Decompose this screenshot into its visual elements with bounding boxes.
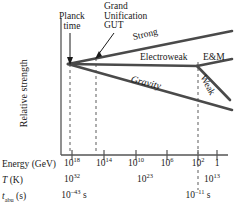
- planck-time-line2: time: [63, 21, 80, 31]
- planck-time-annotation: Planck time: [59, 12, 85, 32]
- time-value-0-suffix: s: [81, 190, 87, 200]
- gut-line3: GUT: [104, 20, 124, 30]
- energy-tick-2-exponent: 10: [138, 156, 144, 163]
- planck-time-line1: Planck: [59, 11, 85, 21]
- energy-tick-3-exponent: 6: [170, 156, 173, 163]
- temperature-value-1-mantissa: 10: [137, 174, 147, 184]
- y-axis-label: Relative strength: [19, 45, 30, 141]
- curve-label-em: E&M: [203, 53, 225, 63]
- temperature-value-0-mantissa: 10: [64, 174, 74, 184]
- energy-tick-5-mantissa: 1: [215, 158, 220, 168]
- energy-tick-1-exponent: 14: [106, 156, 112, 163]
- energy-tick-1-mantissa: 10: [96, 158, 106, 168]
- time-value-1-exponent: –11: [195, 188, 204, 195]
- energy-tick-0: 1018: [64, 159, 80, 169]
- temperature-value-1: 1023: [137, 175, 153, 185]
- row-label-time-unit: (s): [14, 191, 26, 201]
- temperature-value-2-mantissa: 10: [204, 174, 214, 184]
- row-label-temperature: T (K): [2, 176, 23, 186]
- energy-tick-4-exponent: 2: [201, 156, 204, 163]
- plot-canvas: [0, 0, 235, 212]
- gut-line1: Grand: [104, 1, 128, 11]
- row-label-energy: Energy (GeV): [2, 160, 56, 170]
- curve-electroweak: [68, 64, 198, 66]
- curve-label-electroweak: Electroweak: [140, 53, 187, 63]
- energy-tick-0-exponent: 18: [74, 156, 80, 163]
- energy-tick-4: 102: [192, 159, 205, 169]
- gut-line2: Unification: [104, 11, 147, 21]
- gut-annotation: Grand Unification GUT: [104, 2, 147, 31]
- energy-tick-3-mantissa: 10: [161, 158, 171, 168]
- time-value-1-suffix: s: [204, 190, 210, 200]
- time-value-0: 10–43 s: [61, 191, 86, 201]
- time-value-0-mantissa: 10: [61, 190, 71, 200]
- temperature-value-0-exponent: 32: [74, 172, 80, 179]
- energy-tick-5: 1: [215, 159, 220, 169]
- temperature-value-1-exponent: 23: [147, 172, 153, 179]
- temperature-value-2-exponent: 13: [214, 172, 220, 179]
- planck-time-arrow: [67, 33, 73, 65]
- energy-tick-4-mantissa: 10: [192, 158, 202, 168]
- temperature-value-2: 1013: [204, 175, 220, 185]
- energy-tick-2: 1010: [128, 159, 144, 169]
- time-value-0-exponent: –43: [71, 188, 81, 195]
- row-label-temperature-unit: (K): [7, 175, 23, 185]
- force-unification-figure: Relative strength Planck time Grand Unif…: [0, 0, 235, 212]
- time-value-1-mantissa: 10: [185, 190, 195, 200]
- energy-tick-3: 106: [161, 159, 174, 169]
- row-label-time: tabu (s): [2, 192, 26, 202]
- row-label-time-subscript: abu: [5, 196, 14, 203]
- energy-tick-1: 1014: [96, 159, 112, 169]
- energy-tick-0-mantissa: 10: [64, 158, 74, 168]
- temperature-value-0: 1032: [64, 175, 80, 185]
- energy-tick-2-mantissa: 10: [128, 158, 138, 168]
- time-value-1: 10–11 s: [185, 191, 210, 201]
